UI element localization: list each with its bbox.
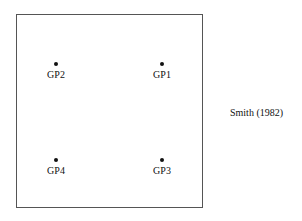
point-marker-icon [54,62,58,66]
point-label: GP1 [142,69,182,81]
point-label: GP4 [36,165,76,177]
point-label: GP3 [142,165,182,177]
point-marker-icon [160,62,164,66]
point-marker-icon [54,158,58,162]
point-label: GP2 [36,69,76,81]
boundary-square [16,14,203,208]
citation-label: Smith (1982) [230,107,283,119]
point-marker-icon [160,158,164,162]
